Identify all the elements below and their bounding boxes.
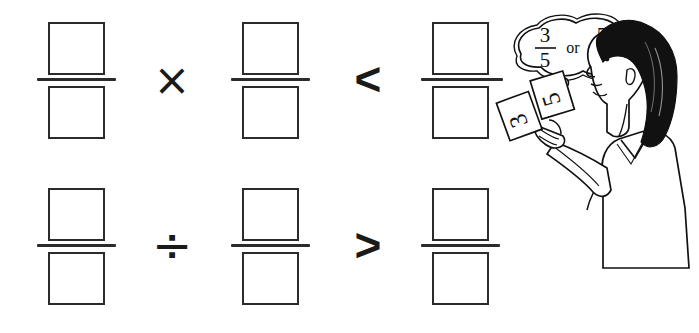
worksheet-canvas: × < ÷ > 3 5 (0, 0, 699, 333)
division-sign-icon: ÷ (150, 220, 194, 268)
fraction-3-numerator-box[interactable] (432, 22, 489, 75)
girl-thinking-illustration: 3 5 or 5 3 ? (495, 8, 699, 288)
fraction-4-denominator-box[interactable] (48, 252, 105, 305)
fraction-6-denominator-box[interactable] (432, 252, 489, 305)
fraction-3-bar (421, 78, 503, 81)
fraction-3-denominator-box[interactable] (432, 86, 489, 139)
fraction-6-bar (421, 244, 500, 247)
girl-arm (547, 142, 611, 196)
fraction-4-numerator-box[interactable] (48, 188, 105, 241)
fraction-5-bar (231, 244, 310, 247)
girl-torso (602, 131, 689, 268)
fraction-1-bar (37, 78, 116, 81)
fraction-2-denominator-box[interactable] (242, 86, 299, 139)
fraction-2-bar (231, 78, 310, 81)
greater-than-sign-icon: > (346, 222, 390, 268)
fraction-2-numerator-box[interactable] (242, 22, 299, 75)
fraction-5-numerator-box[interactable] (242, 188, 299, 241)
bubble-option-a-numerator: 3 (540, 23, 551, 47)
fraction-5-denominator-box[interactable] (242, 252, 299, 305)
bubble-option-a-denominator: 5 (540, 48, 551, 72)
fraction-1-numerator-box[interactable] (48, 22, 105, 75)
number-cards: 5 3 (496, 71, 574, 141)
bubble-connector-or: or (566, 39, 580, 56)
fraction-1-denominator-box[interactable] (48, 86, 105, 139)
less-than-sign-icon: < (346, 56, 390, 102)
fraction-4-bar (37, 244, 116, 247)
multiplication-sign-icon: × (150, 58, 194, 102)
fraction-6-numerator-box[interactable] (432, 188, 489, 241)
